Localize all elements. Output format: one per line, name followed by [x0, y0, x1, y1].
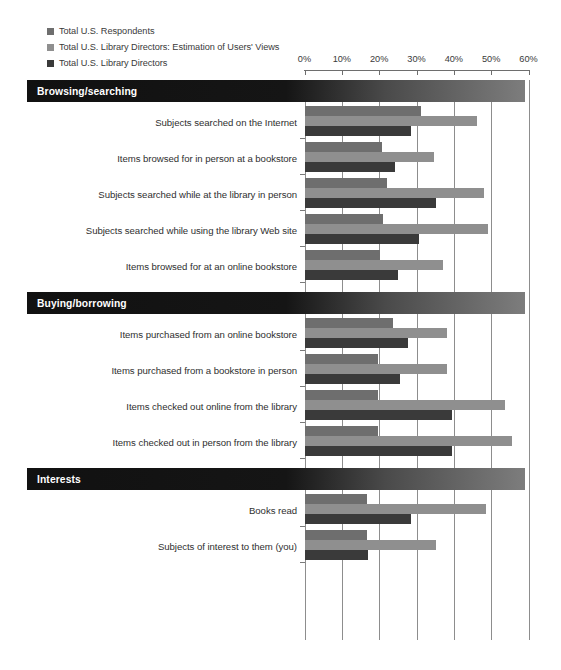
section-header-bar: Buying/borrowing — [27, 292, 525, 314]
bar-respondents — [305, 142, 382, 152]
row-axis-tick — [300, 526, 305, 527]
bar-respondents — [305, 354, 378, 364]
x-axis-tick — [379, 70, 380, 75]
row-axis-tick — [300, 458, 305, 459]
bar-directors — [305, 446, 452, 456]
chart-row: Subjects of interest to them (you) — [0, 528, 561, 564]
row-category-label: Subjects searched while at the library i… — [98, 176, 297, 212]
x-axis-tick-label: 60% — [519, 54, 537, 64]
row-bar-group — [305, 354, 561, 386]
bar-respondents — [305, 178, 387, 188]
row-axis-tick — [300, 422, 305, 423]
bar-respondents — [305, 530, 367, 540]
bar-directors-estimation — [305, 260, 443, 270]
row-axis-tick — [300, 350, 305, 351]
section-header-title: Interests — [27, 474, 81, 485]
bar-directors-estimation — [305, 540, 436, 550]
x-axis-tick-label: 20% — [370, 54, 388, 64]
x-axis-tick-label: 0% — [298, 54, 311, 64]
bar-respondents — [305, 106, 421, 116]
x-axis-tick-label: 50% — [482, 54, 500, 64]
row-axis-tick — [300, 282, 305, 283]
bar-directors-estimation — [305, 152, 434, 162]
row-category-label: Items browsed for at an online bookstore — [126, 248, 297, 284]
row-category-label: Books read — [249, 492, 297, 528]
chart-section: Buying/borrowingItems purchased from an … — [0, 292, 561, 460]
chart-row: Books read — [0, 492, 561, 528]
bar-directors — [305, 514, 411, 524]
row-category-label: Items purchased from an online bookstore — [120, 316, 297, 352]
plot-area: Browsing/searchingSubjects searched on t… — [0, 80, 561, 640]
bar-directors-estimation — [305, 328, 447, 338]
bar-respondents — [305, 250, 380, 260]
row-category-label: Items checked out in person from the lib… — [113, 424, 297, 460]
bar-directors — [305, 198, 436, 208]
row-bar-group — [305, 214, 561, 246]
legend-item: Total U.S. Library Directors: Estimation… — [47, 40, 347, 55]
bar-directors-estimation — [305, 400, 505, 410]
legend-swatch-directors-estimation — [47, 44, 54, 51]
row-bar-group — [305, 106, 561, 138]
row-axis-tick — [300, 174, 305, 175]
chart-row: Subjects searched on the Internet — [0, 104, 561, 140]
row-bar-group — [305, 250, 561, 282]
row-bar-group — [305, 142, 561, 174]
bar-respondents — [305, 214, 383, 224]
row-category-label: Items checked out online from the librar… — [126, 388, 297, 424]
row-bar-group — [305, 390, 561, 422]
section-header-bar: Interests — [27, 468, 525, 490]
x-axis-tick — [454, 70, 455, 75]
x-axis-tick-labels: 0%10%20%30%40%50%60% — [0, 54, 561, 68]
bar-respondents — [305, 390, 378, 400]
chart-row: Subjects searched while using the librar… — [0, 212, 561, 248]
chart-section: InterestsBooks readSubjects of interest … — [0, 468, 561, 564]
row-axis-tick — [300, 562, 305, 563]
chart-row: Items purchased from a bookstore in pers… — [0, 352, 561, 388]
legend-item: Total U.S. Respondents — [47, 24, 347, 39]
legend-swatch-respondents — [47, 28, 54, 35]
chart-page: { "legend": { "items": [ { "label": "Tot… — [0, 0, 561, 670]
row-category-label: Items browsed for in person at a booksto… — [117, 140, 297, 176]
chart-row: Items purchased from an online bookstore — [0, 316, 561, 352]
row-axis-tick — [300, 246, 305, 247]
bar-directors — [305, 374, 400, 384]
x-axis-tick — [529, 70, 530, 75]
row-category-label: Subjects of interest to them (you) — [158, 528, 297, 564]
bar-respondents — [305, 494, 367, 504]
bar-respondents — [305, 318, 393, 328]
legend-label-respondents: Total U.S. Respondents — [59, 26, 154, 37]
bar-directors — [305, 162, 395, 172]
bar-respondents — [305, 426, 378, 436]
chart-row: Items browsed for at an online bookstore — [0, 248, 561, 284]
section-header-title: Browsing/searching — [27, 86, 137, 97]
bar-directors — [305, 126, 411, 136]
row-bar-group — [305, 178, 561, 210]
row-category-label: Subjects searched on the Internet — [155, 104, 297, 140]
row-category-label: Subjects searched while using the librar… — [86, 212, 297, 248]
bar-directors-estimation — [305, 116, 477, 126]
chart-section: Browsing/searchingSubjects searched on t… — [0, 80, 561, 284]
x-axis-tick — [305, 70, 306, 75]
bar-directors-estimation — [305, 436, 512, 446]
x-axis-tick — [417, 70, 418, 75]
chart-row: Items browsed for in person at a booksto… — [0, 140, 561, 176]
row-axis-tick — [300, 386, 305, 387]
bar-directors — [305, 550, 368, 560]
row-bar-group — [305, 318, 561, 350]
section-header-title: Buying/borrowing — [27, 298, 127, 309]
x-axis-tick — [342, 70, 343, 75]
bar-directors-estimation — [305, 224, 488, 234]
bar-directors — [305, 270, 398, 280]
section-header-bar: Browsing/searching — [27, 80, 525, 102]
x-axis-tick-label: 30% — [407, 54, 425, 64]
bar-directors-estimation — [305, 504, 486, 514]
chart-row: Items checked out online from the librar… — [0, 388, 561, 424]
bar-directors-estimation — [305, 188, 484, 198]
x-axis-tick-label: 10% — [333, 54, 351, 64]
bar-directors — [305, 234, 419, 244]
row-bar-group — [305, 426, 561, 458]
x-axis-tick — [491, 70, 492, 75]
row-axis-tick — [300, 210, 305, 211]
bar-directors — [305, 410, 452, 420]
bar-directors — [305, 338, 408, 348]
